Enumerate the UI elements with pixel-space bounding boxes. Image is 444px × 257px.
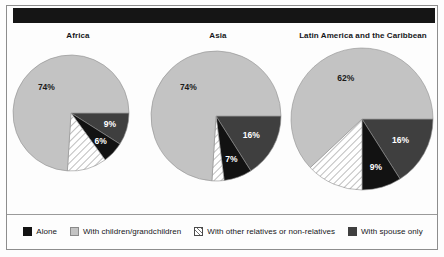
legend-item-with-children-grandchildren: With children/grandchildren — [70, 227, 181, 236]
pie-chart-latin-america-caribbean: 16%9%62% — [288, 45, 436, 193]
pie-slice-label: 7% — [225, 154, 238, 164]
legend-swatch-icon — [23, 227, 32, 236]
legend-swatch-icon — [348, 227, 357, 236]
pie-slice-label: 74% — [38, 82, 55, 92]
legend-divider — [7, 214, 437, 215]
figure-root: Africa Asia Latin America and the Caribb… — [0, 0, 444, 257]
pie-slice-label: 6% — [94, 136, 107, 146]
pie-slice-label: 9% — [104, 119, 117, 129]
pie-chart-africa: 9%6%74% — [10, 52, 132, 174]
pie-slice-label: 74% — [180, 82, 197, 92]
pie-slice-label: 9% — [370, 162, 383, 172]
legend-item-alone: Alone — [23, 227, 57, 236]
panel-title-latin-america-caribbean: Latin America and the Caribbean — [288, 31, 438, 40]
legend-item-with-other-relatives: With other relatives or non-relatives — [194, 227, 335, 236]
pie-slice-label: 16% — [243, 130, 260, 140]
legend-label: With children/grandchildren — [83, 227, 181, 236]
legend-swatch-icon — [194, 227, 203, 236]
legend-label: With other relatives or non-relatives — [207, 227, 335, 236]
header-bar — [13, 8, 435, 23]
pie-chart-asia: 16%7%74% — [148, 48, 284, 184]
pie-svg: 16%7%74% — [148, 48, 284, 184]
pie-svg: 16%9%62% — [288, 45, 436, 193]
pie-svg: 9%6%74% — [10, 52, 132, 174]
legend-swatch-icon — [70, 227, 79, 236]
legend-label: With spouse only — [361, 227, 423, 236]
legend-item-with-spouse-only: With spouse only — [348, 227, 423, 236]
panel-title-asia: Asia — [157, 31, 279, 40]
pie-slice-label: 16% — [392, 135, 409, 145]
pie-slice-label: 62% — [337, 73, 354, 83]
legend-label: Alone — [36, 227, 57, 236]
legend: AloneWith children/grandchildrenWith oth… — [14, 221, 432, 241]
panel-title-africa: Africa — [18, 31, 138, 40]
